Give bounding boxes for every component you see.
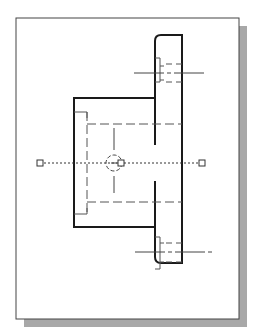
right-grip-handle[interactable] <box>199 160 205 166</box>
left-grip-handle[interactable] <box>37 160 43 166</box>
drawing-sheet <box>16 18 239 319</box>
cad-drawing <box>0 0 255 336</box>
center-grip-handle[interactable] <box>118 160 124 166</box>
